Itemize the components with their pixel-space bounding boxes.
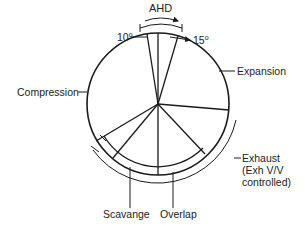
injection-start-line bbox=[147, 34, 158, 104]
angle-10-label: 10o bbox=[117, 31, 133, 43]
ahd-arrow bbox=[145, 18, 178, 21]
angle-15-label: 15o bbox=[193, 34, 209, 46]
injection-end-line bbox=[158, 36, 178, 104]
scavange-label: Scavange bbox=[103, 208, 150, 220]
overlap-label: Overlap bbox=[160, 208, 197, 220]
expansion-end-line bbox=[158, 104, 229, 110]
timing-diagram bbox=[0, 0, 305, 230]
exhaust-label: Exhaust (Exh V/V controlled) bbox=[242, 152, 291, 188]
ahd-label: AHD bbox=[149, 2, 172, 14]
scavenge-open-line bbox=[113, 104, 158, 158]
compression-label: Compression bbox=[17, 86, 79, 98]
scavenge-close-line bbox=[158, 104, 205, 154]
expansion-label: Expansion bbox=[237, 65, 286, 77]
ahd-bracket bbox=[140, 24, 182, 28]
exhaust-open-line bbox=[96, 104, 158, 141]
